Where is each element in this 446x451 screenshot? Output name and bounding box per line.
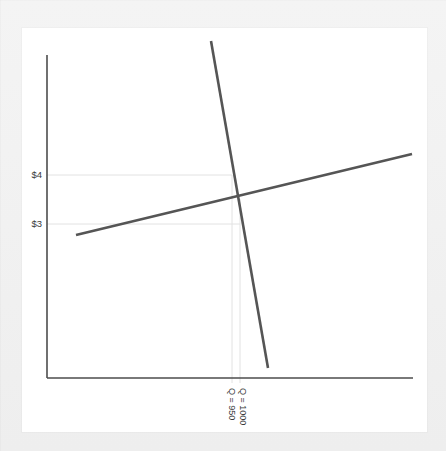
x-tick-label-q950: Q = 950 bbox=[227, 388, 237, 420]
x-tick-label-q1000: Q = 1000 bbox=[238, 388, 248, 425]
supply-demand-chart: $4 $3 Q = 950 Q = 1000 bbox=[22, 28, 427, 432]
y-tick-label-3: $3 bbox=[31, 218, 42, 229]
chart-card: $4 $3 Q = 950 Q = 1000 bbox=[22, 28, 427, 432]
supply-demand-plot: $4 $3 Q = 950 Q = 1000 bbox=[22, 28, 427, 432]
y-tick-label-4: $4 bbox=[31, 169, 42, 180]
